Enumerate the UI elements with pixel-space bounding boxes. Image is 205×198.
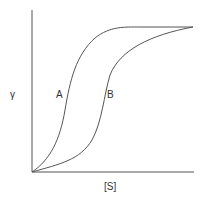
curve-a-label: A: [56, 89, 63, 100]
y-axis-label: γ: [10, 89, 15, 100]
chart: γ A B [S]: [0, 0, 205, 198]
x-axis-label: [S]: [104, 181, 116, 192]
curve-b-label: B: [107, 89, 114, 100]
